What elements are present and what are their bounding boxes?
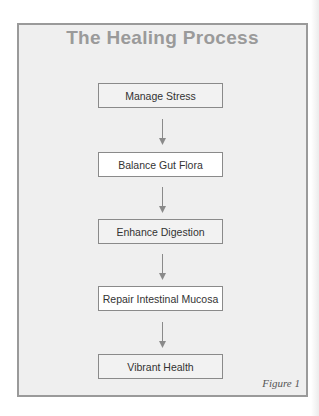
step-balance-gut-flora: Balance Gut Flora (98, 152, 223, 177)
step-vibrant-health: Vibrant Health (98, 354, 223, 379)
figure-caption: Figure 1 (262, 377, 300, 389)
step-repair-intestinal-mucosa: Repair Intestinal Mucosa (98, 286, 223, 311)
arrow-down-icon (159, 254, 166, 280)
step-manage-stress: Manage Stress (98, 83, 223, 108)
step-enhance-digestion: Enhance Digestion (98, 219, 223, 244)
arrow-down-icon (159, 187, 166, 213)
arrow-down-icon (159, 119, 166, 145)
healing-process-figure: The Healing Process Manage Stress Balanc… (17, 23, 308, 397)
figure-title: The Healing Process (19, 27, 306, 49)
page-edge-shadow (311, 0, 319, 416)
arrow-down-icon (159, 322, 166, 348)
